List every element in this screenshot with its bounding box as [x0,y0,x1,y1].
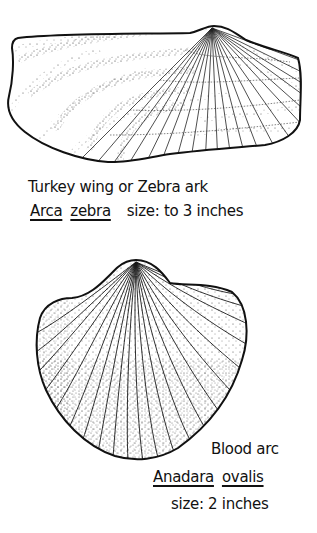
turkey-wing-scientific-line: Arcazebrasize: to 3 inches [30,202,243,220]
turkey-wing-shell-drawing [8,26,310,165]
blood-arc-genus: Anadara [153,468,214,486]
blood-arc-size: size: 2 inches [171,495,269,513]
turkey-wing-species: zebra [70,202,110,220]
turkey-wing-common-name: Turkey wing or Zebra ark [28,178,208,196]
blood-arc-species: ovalis [222,468,264,486]
blood-arc-scientific-line: Anadaraovalis [153,468,264,486]
blood-arc-shell-drawing [30,255,260,470]
turkey-wing-genus: Arca [30,202,62,220]
turkey-wing-size: size: to 3 inches [127,202,243,220]
blood-arc-common-name: Blood arc [211,440,279,458]
